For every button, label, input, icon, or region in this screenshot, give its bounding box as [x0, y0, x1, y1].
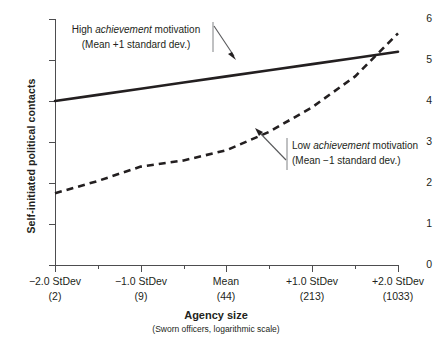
annotation-high-emphasis: achievement [95, 24, 152, 35]
annotation-low-achievement: Low achievement motivation (Mean −1 stan… [292, 138, 432, 168]
annotation-low-line1: Low achievement motivation [292, 138, 432, 153]
x-axis-subtitle: (Sworn officers, logarithmic scale) [0, 324, 432, 334]
x-axis-title: Agency size [0, 309, 432, 321]
annotation-high-arrow [214, 26, 236, 60]
annotation-low-post: motivation [370, 140, 418, 151]
annotation-low-emphasis: achievement [313, 140, 370, 151]
annotation-low-arrow [255, 128, 286, 160]
annotation-high-line1: High achievement motivation [60, 22, 212, 37]
annotation-high-post: motivation [152, 24, 200, 35]
annotation-high-achievement: High achievement motivation (Mean +1 sta… [60, 22, 212, 52]
series-line-low-achievement [55, 33, 398, 193]
annotation-low-line2: (Mean −1 standard dev.) [292, 153, 432, 168]
series-line-high-achievement [55, 52, 398, 101]
annotation-high-pre: High [72, 24, 95, 35]
annotation-low-pre: Low [292, 140, 313, 151]
annotation-high-line2: (Mean +1 standard dev.) [60, 37, 212, 52]
